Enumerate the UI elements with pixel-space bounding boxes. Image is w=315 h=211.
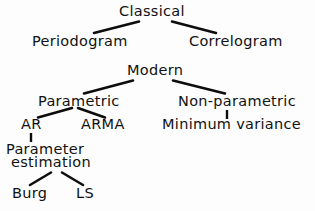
edge-modern-parametric [84, 81, 133, 94]
edge-estimation-ls [62, 173, 83, 186]
edge-modern-non-parametric [173, 81, 225, 94]
edge-parametric-ar [38, 108, 72, 118]
node-burg: Burg [12, 186, 47, 201]
node-ar: AR [21, 117, 42, 132]
node-parameter-estimation-line2: estimation [11, 155, 91, 170]
node-arma: ARMA [81, 117, 125, 132]
node-ls: LS [76, 186, 94, 201]
node-correlogram: Correlogram [189, 34, 283, 49]
edge-estimation-burg [30, 173, 51, 186]
node-classical: Classical [119, 4, 185, 19]
edge-classical-periodogram [94, 22, 139, 34]
node-modern: Modern [127, 63, 183, 78]
node-parametric: Parametric [38, 94, 120, 109]
node-minimum-variance: Minimum variance [162, 117, 301, 132]
spectral-estimation-tree-diagram: Classical Periodogram Correlogram Modern… [0, 0, 315, 211]
node-non-parametric: Non-parametric [178, 94, 296, 109]
edge-classical-correlogram [172, 22, 216, 34]
node-periodogram: Periodogram [32, 34, 128, 49]
